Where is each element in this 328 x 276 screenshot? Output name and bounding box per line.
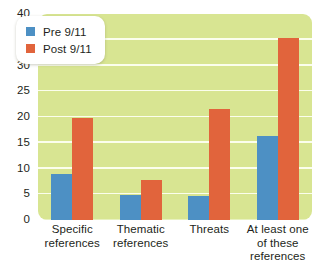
bar-post	[278, 38, 299, 220]
legend-item-label: Pre 9/11	[43, 26, 86, 38]
bar-pre	[257, 136, 278, 220]
y-axis-tick-label: 20	[0, 111, 30, 123]
bar-pre	[120, 195, 141, 220]
chart-legend: Pre 9/11Post 9/11	[16, 16, 105, 64]
legend-swatch-icon	[26, 44, 35, 53]
bar-group	[107, 14, 176, 220]
bar-pre	[188, 196, 209, 220]
x-axis: SpecificreferencesThematicreferencesThre…	[38, 223, 312, 273]
bar-group	[175, 14, 244, 220]
legend-item: Post 9/11	[26, 40, 92, 57]
bar-post	[209, 109, 230, 220]
x-axis-category-label: At least oneof thesereferences	[238, 223, 319, 264]
bar-chart-figure: 0510152025303540 Pre 9/11Post 9/11 Speci…	[0, 0, 328, 276]
legend-swatch-icon	[26, 27, 35, 36]
y-axis-tick-label: 10	[0, 163, 30, 175]
x-axis-category-label-line: of these	[238, 237, 319, 251]
bar-post	[72, 118, 93, 220]
x-axis-category-label-line: references	[238, 250, 319, 264]
y-axis-tick-label: 5	[0, 189, 30, 201]
x-axis-category-label-line: references	[101, 237, 182, 251]
bar-post	[141, 180, 162, 220]
legend-item: Pre 9/11	[26, 23, 92, 40]
y-axis-tick-label: 25	[0, 86, 30, 98]
x-axis-category-label-line: At least one	[238, 223, 319, 237]
bar-group	[244, 14, 313, 220]
y-axis-tick-label: 15	[0, 137, 30, 149]
y-axis-tick-label: 0	[0, 214, 30, 226]
bar-pre	[51, 174, 72, 220]
legend-item-label: Post 9/11	[43, 43, 92, 55]
